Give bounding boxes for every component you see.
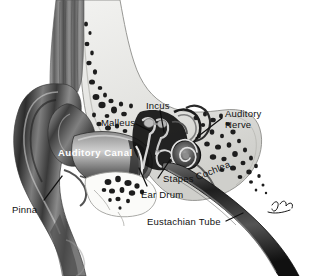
- label-incus: Incus: [146, 100, 170, 111]
- label-pinna: Pinna: [12, 204, 37, 215]
- label-auditory-nerve-line2: Nerve: [225, 119, 251, 130]
- ear-anatomy-figure: Pinna Auditory Canal Malleus Incus Stape…: [0, 0, 310, 276]
- label-auditory-canal: Auditory Canal: [58, 147, 133, 158]
- label-eustachian-tube: Eustachian Tube: [147, 216, 221, 227]
- label-auditory-nerve-line1: Auditory: [225, 108, 261, 119]
- label-ear-drum: Ear Drum: [141, 189, 183, 200]
- ear-illustration: [0, 0, 310, 276]
- label-stapes: Stapes: [163, 173, 194, 184]
- label-malleus: Malleus: [101, 117, 135, 128]
